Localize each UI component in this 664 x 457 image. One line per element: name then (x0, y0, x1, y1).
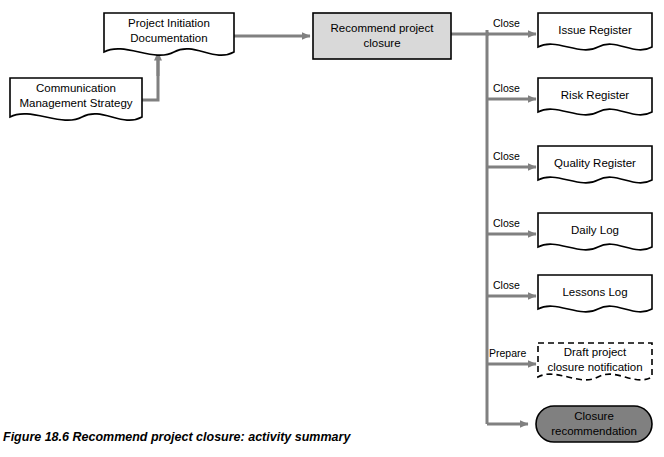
node-closure-recommendation-label: Closurerecommendation (536, 406, 652, 442)
node-comms-label: CommunicationManagement Strategy (10, 79, 142, 113)
node-activity-label: Recommend projectclosure (313, 13, 451, 59)
edge-label-close-quality: Close (493, 150, 520, 162)
edge-label-close-issue: Close (493, 17, 520, 29)
edge-label-close-lessons: Close (493, 279, 520, 291)
edge-label-close-daily: Close (493, 217, 520, 229)
node-quality-register-label: Quality Register (538, 147, 652, 179)
edge-label-prepare-draft: Prepare (489, 347, 526, 359)
node-risk-register-label: Risk Register (538, 79, 652, 111)
node-draft-notification-label: Draft projectclosure notification (538, 344, 652, 376)
node-lessons-log-label: Lessons Log (538, 276, 652, 308)
edge-label-close-risk: Close (493, 82, 520, 94)
node-issue-register-label: Issue Register (538, 14, 652, 46)
connector-group (158, 34, 536, 424)
figure-caption: Figure 18.6 Recommend project closure: a… (3, 430, 350, 444)
node-pid-label: Project InitiationDocumentation (104, 14, 234, 48)
node-daily-log-label: Daily Log (538, 214, 652, 246)
